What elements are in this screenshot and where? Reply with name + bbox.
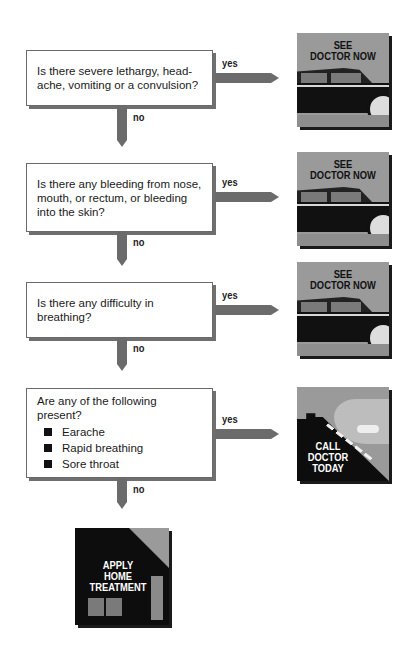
question-text: Is there severe lethargy, head- ache, vo… (37, 64, 202, 92)
question-text: Is there any bleeding from nose, mouth, … (37, 177, 202, 219)
see-doctor-now-image-2: SEE DOCTOR NOW (297, 152, 389, 246)
question-text: Are any of the following present? (37, 394, 202, 422)
yes-arrow-4 (215, 429, 271, 439)
outcome-caption: SEE DOCTOR NOW (304, 159, 382, 181)
no-arrow-4 (117, 478, 127, 502)
no-arrow-2 (117, 232, 127, 259)
question-box-2: Is there any bleeding from nose, mouth, … (26, 163, 213, 232)
no-label-2: no (133, 236, 144, 248)
outcome-caption: SEE DOCTOR NOW (304, 40, 382, 62)
question-text: Is there any difficulty in breathing? (37, 296, 202, 324)
yes-label-4: yes (222, 413, 238, 425)
symptom-item: Rapid breathing (44, 440, 202, 456)
question-box-3: Is there any difficulty in breathing? (26, 282, 213, 338)
symptom-list: Earache Rapid breathing Sore throat (37, 424, 202, 472)
symptom-item: Sore throat (44, 456, 202, 472)
yes-arrow-3 (215, 305, 271, 315)
symptom-item: Earache (44, 424, 202, 440)
yes-arrow-2 (215, 192, 271, 202)
outcome-caption: SEE DOCTOR NOW (304, 269, 382, 291)
outcome-caption: CALL DOCTOR TODAY (297, 441, 380, 474)
yes-arrow-1 (215, 73, 271, 83)
yes-label-2: yes (222, 176, 238, 188)
no-label-3: no (133, 342, 144, 354)
no-arrow-1 (117, 106, 127, 140)
no-label-1: no (133, 111, 144, 123)
no-label-4: no (133, 483, 144, 495)
call-doctor-today-image: CALL DOCTOR TODAY (297, 387, 389, 481)
see-doctor-now-image-1: SEE DOCTOR NOW (297, 33, 389, 127)
apply-home-treatment-image: APPLY HOME TREATMENT (75, 528, 169, 625)
question-box-1: Is there severe lethargy, head- ache, vo… (26, 50, 213, 106)
no-arrow-3 (117, 338, 127, 364)
question-box-4: Are any of the following present? Earach… (26, 388, 213, 478)
yes-label-3: yes (222, 289, 238, 301)
see-doctor-now-image-3: SEE DOCTOR NOW (297, 262, 389, 356)
yes-label-1: yes (222, 57, 238, 69)
final-outcome-caption: APPLY HOME TREATMENT (75, 560, 161, 593)
